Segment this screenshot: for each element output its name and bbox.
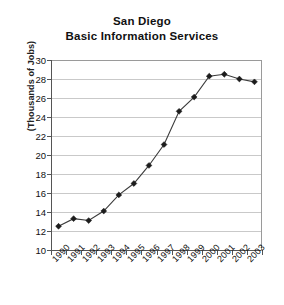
gridlines bbox=[52, 60, 261, 250]
chart-title: San Diego Basic Information Services bbox=[0, 14, 284, 44]
y-tick-label-24: 24 bbox=[12, 112, 46, 123]
y-tick-label-26: 26 bbox=[12, 93, 46, 104]
gridline-26 bbox=[52, 98, 261, 99]
gridline-16 bbox=[52, 193, 261, 194]
y-tick-label-28: 28 bbox=[12, 74, 46, 85]
gridline-30 bbox=[52, 60, 261, 61]
y-tick-label-18: 18 bbox=[12, 169, 46, 180]
gridline-22 bbox=[52, 136, 261, 137]
y-tick-label-16: 16 bbox=[12, 188, 46, 199]
gridline-24 bbox=[52, 117, 261, 118]
y-tick-label-12: 12 bbox=[12, 226, 46, 237]
chart-title-line-2: Basic Information Services bbox=[0, 29, 284, 44]
y-tick-label-14: 14 bbox=[12, 207, 46, 218]
chart-title-line-1: San Diego bbox=[0, 14, 284, 29]
gridline-12 bbox=[52, 231, 261, 232]
chart-container: San Diego Basic Information Services (Th… bbox=[0, 0, 284, 305]
y-tick-label-22: 22 bbox=[12, 131, 46, 142]
y-tick-label-20: 20 bbox=[12, 150, 46, 161]
y-tick-label-30: 30 bbox=[12, 55, 46, 66]
gridline-14 bbox=[52, 212, 261, 213]
gridline-20 bbox=[52, 155, 261, 156]
gridline-18 bbox=[52, 174, 261, 175]
y-tick-label-10: 10 bbox=[12, 245, 46, 256]
plot-area bbox=[51, 60, 262, 250]
gridline-28 bbox=[52, 79, 261, 80]
